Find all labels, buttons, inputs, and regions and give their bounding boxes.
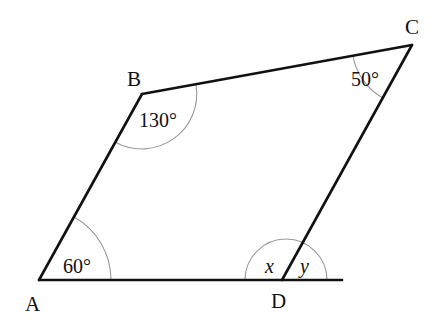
angle-label-a: 60° (63, 255, 91, 277)
vertex-label-b: B (127, 67, 141, 91)
angle-label-y: y (298, 255, 309, 278)
angle-label-x: x (264, 255, 274, 277)
edge-ab (39, 94, 142, 280)
edge-cd (282, 45, 412, 280)
vertex-label-a: A (25, 292, 41, 316)
quadrilateral-diagram: A B C D 60° 130° 50° x y (0, 0, 438, 324)
vertex-label-c: C (405, 15, 419, 39)
vertex-label-d: D (271, 289, 286, 313)
angle-label-b: 130° (139, 109, 177, 131)
angle-label-c: 50° (351, 68, 379, 90)
